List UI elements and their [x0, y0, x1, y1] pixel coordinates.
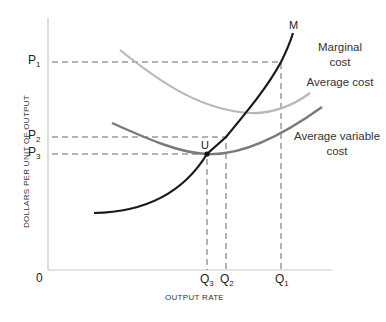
y-axis-title: DOLLARS PER UNIT OF OUTPUT — [22, 95, 31, 228]
guide-p2-q2 — [52, 137, 226, 270]
marginal-end-label-m: M — [289, 20, 298, 31]
marginal-cost-curve — [94, 33, 293, 213]
x-tick-q3: Q3 — [200, 273, 214, 288]
x-tick-q1: Q1 — [275, 273, 289, 288]
point-u-label: U — [201, 140, 209, 151]
y-tick-p1: P1 — [28, 54, 40, 69]
average-cost-label: Average cost — [295, 75, 385, 90]
point-u-marker — [204, 151, 209, 156]
guide-lines — [52, 62, 281, 270]
guide-p1-q1 — [52, 62, 281, 270]
x-tick-q2: Q2 — [220, 273, 234, 288]
x-axis-title: OUTPUT RATE — [165, 293, 224, 302]
marginal-cost-label: Marginal cost — [300, 40, 380, 70]
guide-p3-q3 — [52, 154, 207, 270]
average-variable-cost-label: Average variable cost — [288, 129, 386, 159]
origin-label: 0 — [36, 272, 43, 284]
